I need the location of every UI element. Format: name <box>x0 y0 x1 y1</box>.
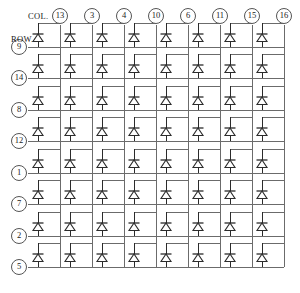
cell-r9-c16 <box>257 23 285 47</box>
row-caption-label: ROW. <box>11 34 33 44</box>
cell-r5-c15 <box>225 243 253 267</box>
col-terminal-16[interactable]: 16 <box>277 9 292 24</box>
cell-r12-c15 <box>225 117 253 141</box>
cell-r7-c10-diode-symbol <box>129 191 139 199</box>
cell-r2-c10-diode-symbol <box>129 223 139 231</box>
cell-r5-c15-diode-symbol <box>225 254 235 262</box>
cell-r12-c15-diode-symbol <box>225 128 235 136</box>
cell-r14-c4-diode-symbol <box>97 65 107 73</box>
col-terminal-3[interactable]: 3 <box>85 9 100 24</box>
cell-r1-c15 <box>225 149 253 173</box>
cell-r8-c15 <box>225 86 253 110</box>
col-terminal-11[interactable]: 11 <box>213 9 228 24</box>
cell-r7-c6 <box>161 180 189 204</box>
cell-r12-c13 <box>33 117 61 141</box>
row-terminal-label-7: 7 <box>17 198 21 208</box>
cell-r9-c4-diode-symbol <box>97 34 107 42</box>
cell-r9-c13-diode-symbol <box>33 34 43 42</box>
cell-r14-c16 <box>257 54 285 78</box>
cell-r12-c3 <box>65 117 93 141</box>
cell-r1-c3-diode-symbol <box>65 160 75 168</box>
cell-r1-c10 <box>129 149 157 173</box>
cell-r1-c16-diode-symbol <box>257 160 267 168</box>
cell-r5-c4-diode-symbol <box>97 254 107 262</box>
cell-r14-c3 <box>65 54 93 78</box>
cell-r9-c4 <box>97 23 125 47</box>
cell-r9-c3 <box>65 23 93 47</box>
cell-r5-c10-diode-symbol <box>129 254 139 262</box>
cell-r1-c11 <box>193 149 221 173</box>
cell-r1-c3 <box>65 149 93 173</box>
cell-r7-c16 <box>257 180 285 204</box>
cell-r1-c10-diode-symbol <box>129 160 139 168</box>
row-terminal-1[interactable]: 1 <box>12 166 27 181</box>
cell-r8-c16 <box>257 86 285 110</box>
col-terminal-label-15: 15 <box>248 10 257 20</box>
cell-r9-c6-diode-symbol <box>161 34 171 42</box>
cell-r7-c11 <box>193 180 221 204</box>
cell-r7-c10 <box>129 180 157 204</box>
cell-r5-c6-diode-symbol <box>161 254 171 262</box>
col-terminal-label-16: 16 <box>280 10 289 20</box>
cell-r8-c3 <box>65 86 93 110</box>
cell-r1-c4-diode-symbol <box>97 160 107 168</box>
row-terminal-8[interactable]: 8 <box>12 103 27 118</box>
row-terminal-label-1: 1 <box>17 167 21 177</box>
cell-r1-c11-diode-symbol <box>193 160 203 168</box>
cell-r8-c6 <box>161 86 189 110</box>
row-terminal-2[interactable]: 2 <box>12 229 27 244</box>
cell-r2-c11 <box>193 212 221 236</box>
col-terminal-6[interactable]: 6 <box>181 9 196 24</box>
cell-r12-c13-diode-symbol <box>33 128 43 136</box>
cell-r12-c6 <box>161 117 189 141</box>
cell-r2-c16 <box>257 212 285 236</box>
cell-r8-c13-diode-symbol <box>33 97 43 105</box>
cell-r7-c16-diode-symbol <box>257 191 267 199</box>
cell-r1-c15-diode-symbol <box>225 160 235 168</box>
cell-r12-c16 <box>257 117 285 141</box>
col-terminal-label-10: 10 <box>152 10 161 20</box>
cell-r2-c15-diode-symbol <box>225 223 235 231</box>
matrix-schematic-svg: 13341061115169148121725 COL. ROW. <box>0 0 300 293</box>
cell-r1-c16 <box>257 149 285 173</box>
cell-r14-c11 <box>193 54 221 78</box>
cell-r5-c16-diode-symbol <box>257 254 267 262</box>
diode-matrix-diagram: 13341061115169148121725 COL. ROW. <box>0 0 300 293</box>
cell-r14-c15 <box>225 54 253 78</box>
cell-r5-c11-diode-symbol <box>193 254 203 262</box>
cell-r14-c4 <box>97 54 125 78</box>
row-terminal-7[interactable]: 7 <box>12 197 27 212</box>
cell-r5-c13-diode-symbol <box>33 254 43 262</box>
cell-r2-c6-diode-symbol <box>161 223 171 231</box>
cell-r12-c16-diode-symbol <box>257 128 267 136</box>
cell-r9-c10 <box>129 23 157 47</box>
cell-r14-c3-diode-symbol <box>65 65 75 73</box>
cell-r12-c11 <box>193 117 221 141</box>
col-terminal-label-3: 3 <box>90 10 94 20</box>
cell-r12-c3-diode-symbol <box>65 128 75 136</box>
row-terminal-label-12: 12 <box>15 135 24 145</box>
cell-r5-c11 <box>193 243 221 267</box>
cell-r2-c11-diode-symbol <box>193 223 203 231</box>
row-terminal-12[interactable]: 12 <box>12 134 27 149</box>
col-terminal-13[interactable]: 13 <box>53 9 68 24</box>
col-terminal-4[interactable]: 4 <box>117 9 132 24</box>
cell-r9-c13 <box>33 23 61 47</box>
cell-r1-c13-diode-symbol <box>33 160 43 168</box>
cell-r8-c13 <box>33 86 61 110</box>
cell-r14-c15-diode-symbol <box>225 65 235 73</box>
cell-r14-c10-diode-symbol <box>129 65 139 73</box>
col-terminal-10[interactable]: 10 <box>149 9 164 24</box>
cell-r7-c13 <box>33 180 61 204</box>
row-terminal-14[interactable]: 14 <box>12 71 27 86</box>
row-terminal-5[interactable]: 5 <box>12 260 27 275</box>
col-terminal-15[interactable]: 15 <box>245 9 260 24</box>
cell-r2-c4-diode-symbol <box>97 223 107 231</box>
cell-r12-c6-diode-symbol <box>161 128 171 136</box>
cell-r2-c6 <box>161 212 189 236</box>
row-terminal-label-8: 8 <box>17 104 21 114</box>
col-caption-label: COL. <box>28 11 48 21</box>
cell-r5-c3 <box>65 243 93 267</box>
cell-r12-c10 <box>129 117 157 141</box>
cell-r8-c10-diode-symbol <box>129 97 139 105</box>
